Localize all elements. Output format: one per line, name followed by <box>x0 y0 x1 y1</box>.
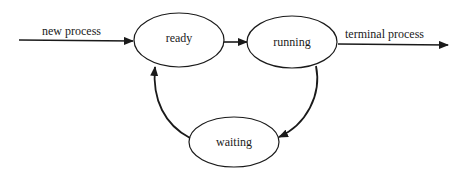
state-ready: ready <box>134 13 224 67</box>
edge-new-process: new process <box>19 24 133 41</box>
edge-label-new-process: new process <box>42 24 101 38</box>
edge-terminal-process: terminal process <box>338 27 448 45</box>
state-waiting: waiting <box>189 117 279 167</box>
process-state-diagram: new process ready running terminal proce… <box>0 0 462 178</box>
state-label-waiting: waiting <box>216 135 252 149</box>
edge-running-to-waiting <box>279 66 317 137</box>
state-running: running <box>247 16 337 68</box>
edge-label-terminal-process: terminal process <box>345 27 424 41</box>
state-label-running: running <box>273 35 310 49</box>
edge-waiting-to-ready <box>155 67 190 138</box>
state-label-ready: ready <box>166 31 193 45</box>
